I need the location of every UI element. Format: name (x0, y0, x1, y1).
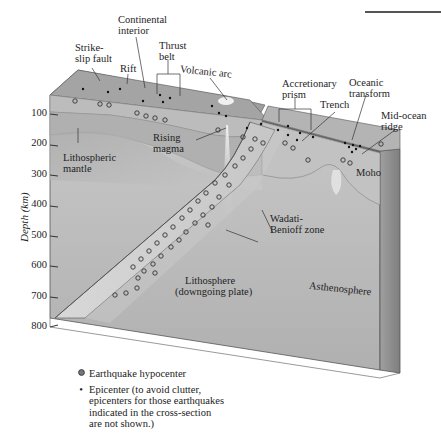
label-trench: Trench (320, 99, 349, 110)
epicenter-icon: • (76, 384, 86, 396)
label-lithosphere: Lithosphere(downgoing plate) (175, 275, 252, 297)
label-mid-ocean-ridge: Mid-oceanridge (381, 110, 426, 132)
label-rising-magma: Risingmagma (153, 132, 184, 154)
depth-tick-300: 300 (17, 168, 47, 179)
right-face (380, 149, 400, 373)
label-strike-slip-fault: Strike-slip fault (75, 42, 112, 64)
legend-hypocenter: Earthquake hypocenter (76, 368, 224, 380)
depth-axis-title: Depth (km) (18, 192, 30, 242)
legend: Earthquake hypocenter • Epicenter (to av… (76, 368, 224, 434)
label-continental-interior: Continentalinterior (118, 14, 167, 36)
hypocenter-icon (76, 368, 86, 380)
label-wadati-benioff-zone: Wadati-Benioff zone (270, 213, 324, 235)
label-lithospheric-mantle: Lithosphericmantle (63, 152, 116, 174)
label-rift: Rift (120, 63, 136, 74)
label-moho: Moho (356, 167, 381, 178)
depth-tick-700: 700 (17, 290, 47, 301)
depth-tick-600: 600 (17, 259, 47, 270)
label-thrust-belt: Thrustbelt (159, 40, 186, 62)
depth-tick-200: 200 (17, 137, 47, 148)
label-accretionary-prism: Accretionaryprism (282, 78, 337, 100)
depth-tick-100: 100 (17, 107, 47, 118)
label-oceanic-transform: Oceanictransform (349, 77, 390, 99)
legend-epicenter: • Epicenter (to avoid clutter, epicenter… (76, 384, 224, 430)
depth-tick-800: 800 (17, 320, 47, 331)
